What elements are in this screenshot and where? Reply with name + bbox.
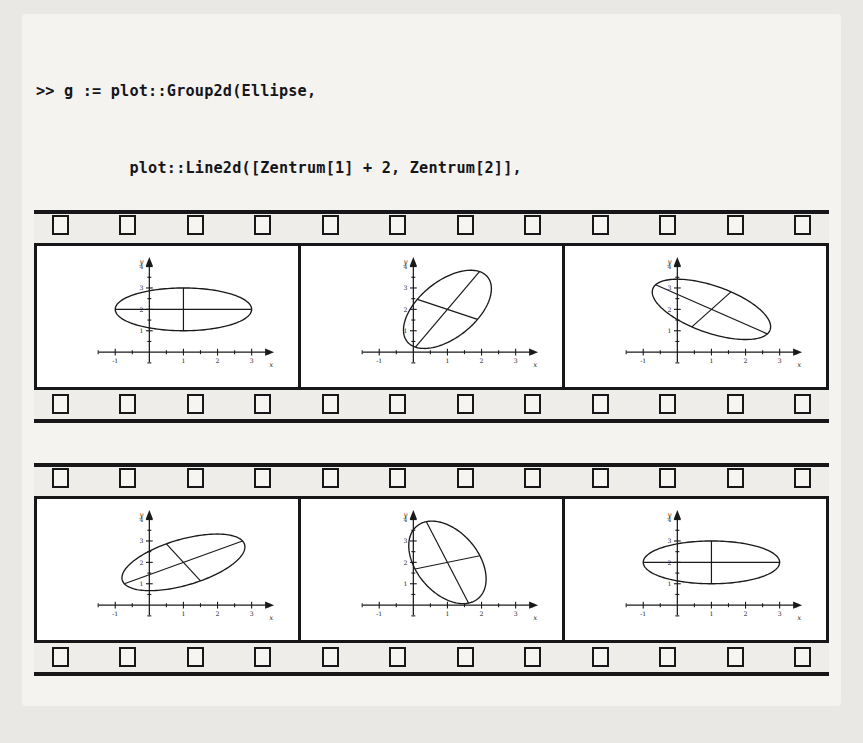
ellipse-rotation-plot: -11231234xy xyxy=(565,499,826,640)
film-perforation xyxy=(727,394,744,414)
film-perforation xyxy=(794,647,811,667)
film-perforation xyxy=(389,468,406,488)
film-perforation xyxy=(727,215,744,235)
film-perforation xyxy=(322,215,339,235)
x-axis-label: x xyxy=(533,361,537,369)
x-tick-label: -1 xyxy=(376,357,382,364)
film-frames-bottom: -11231234xy -11231234xy -11231234xy xyxy=(34,496,829,643)
film-perforation xyxy=(727,647,744,667)
y-tick-label: 3 xyxy=(403,537,407,544)
code-line: plot::Line2d([Zentrum[1] + 2, Zentrum[2]… xyxy=(36,156,826,182)
ellipse-rotation-plot: -11231234xy xyxy=(37,246,298,387)
y-axis-arrow xyxy=(146,510,153,519)
film-perforation xyxy=(592,215,609,235)
x-axis-label: x xyxy=(269,614,273,622)
film-perforation xyxy=(389,215,406,235)
x-tick-label: 2 xyxy=(744,357,748,364)
film-perforation xyxy=(119,468,136,488)
film-rail-top xyxy=(34,463,829,467)
y-tick-label: 3 xyxy=(403,284,407,291)
x-tick-label: 2 xyxy=(216,610,220,617)
film-perforation xyxy=(592,394,609,414)
y-axis-arrow xyxy=(146,257,153,266)
film-perforation xyxy=(52,468,69,488)
y-tick-label: 2 xyxy=(403,559,407,566)
film-perforation xyxy=(119,215,136,235)
x-tick-label: -1 xyxy=(376,610,382,617)
y-axis-arrow xyxy=(410,257,417,266)
film-frames-top: -11231234xy -11231234xy -11231234xy xyxy=(34,243,829,390)
y-tick-label: 2 xyxy=(139,559,143,566)
film-perforation xyxy=(187,468,204,488)
y-axis-label: y xyxy=(138,511,144,519)
film-perforation xyxy=(254,468,271,488)
film-perforation xyxy=(119,394,136,414)
plot-frame: -11231234xy xyxy=(301,499,565,640)
ellipse-rotation-plot: -11231234xy xyxy=(301,246,562,387)
x-tick-label: 3 xyxy=(514,610,518,617)
x-axis-label: x xyxy=(533,614,537,622)
x-axis-arrow xyxy=(265,349,274,356)
film-perforation xyxy=(457,215,474,235)
y-tick-label: 2 xyxy=(403,306,407,313)
film-perforation xyxy=(322,394,339,414)
x-axis-arrow xyxy=(529,602,538,609)
film-perforation xyxy=(659,394,676,414)
y-tick-label: 1 xyxy=(139,327,143,334)
film-rail-bottom xyxy=(34,672,829,676)
film-perforation xyxy=(794,468,811,488)
film-perforation xyxy=(457,647,474,667)
plot-frame: -11231234xy xyxy=(37,246,301,387)
y-tick-label: 3 xyxy=(667,537,671,544)
minor-axis-line xyxy=(415,556,480,569)
film-rail-top xyxy=(34,210,829,214)
x-tick-label: 1 xyxy=(709,610,713,617)
film-perforation xyxy=(52,647,69,667)
x-tick-label: 2 xyxy=(216,357,220,364)
x-axis-arrow xyxy=(793,602,802,609)
film-perforation xyxy=(52,394,69,414)
x-axis-arrow xyxy=(265,602,274,609)
film-perforation xyxy=(794,215,811,235)
y-axis-arrow xyxy=(410,510,417,519)
film-perforation xyxy=(592,468,609,488)
y-axis-arrow xyxy=(674,510,681,519)
x-tick-label: 3 xyxy=(250,357,254,364)
film-perforation xyxy=(187,394,204,414)
y-tick-label: 1 xyxy=(403,580,407,587)
film-perforation xyxy=(389,394,406,414)
film-perforation xyxy=(322,647,339,667)
minor-axis-line xyxy=(166,544,200,581)
x-tick-label: 3 xyxy=(778,357,782,364)
y-tick-label: 3 xyxy=(139,284,143,291)
film-perforation xyxy=(52,215,69,235)
y-axis-arrow xyxy=(674,257,681,266)
film-perforation xyxy=(457,394,474,414)
y-tick-label: 3 xyxy=(139,537,143,544)
plot-frame: -11231234xy xyxy=(565,499,826,640)
ellipse-rotation-plot: -11231234xy xyxy=(37,499,298,640)
y-axis-label: y xyxy=(666,258,672,266)
film-perforation xyxy=(659,647,676,667)
film-perforation xyxy=(592,647,609,667)
x-tick-label: -1 xyxy=(640,357,646,364)
film-perforation xyxy=(727,468,744,488)
film-perforation xyxy=(187,647,204,667)
plot-frame: -11231234xy xyxy=(565,246,826,387)
ellipse-rotation-plot: -11231234xy xyxy=(565,246,826,387)
minor-axis-line xyxy=(692,292,731,327)
plot-frame: -11231234xy xyxy=(37,499,301,640)
x-tick-label: 1 xyxy=(709,357,713,364)
y-axis-label: y xyxy=(402,258,408,266)
x-tick-label: 1 xyxy=(445,357,449,364)
filmstrip-bottom: -11231234xy -11231234xy -11231234xy xyxy=(34,463,829,676)
y-axis-label: y xyxy=(402,511,408,519)
film-perforation xyxy=(794,394,811,414)
x-axis-arrow xyxy=(793,349,802,356)
filmstrip-top: -11231234xy -11231234xy -11231234xy xyxy=(34,210,829,423)
y-tick-label: 1 xyxy=(139,580,143,587)
y-axis-label: y xyxy=(666,511,672,519)
film-perforation xyxy=(254,394,271,414)
x-tick-label: 3 xyxy=(778,610,782,617)
film-perforation xyxy=(254,215,271,235)
